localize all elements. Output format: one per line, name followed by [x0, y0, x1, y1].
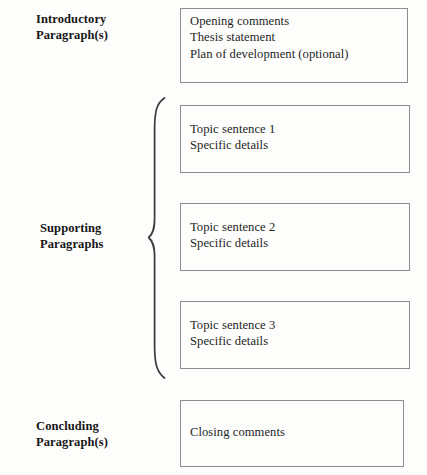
section-label-supporting: Supporting Paragraphs — [40, 221, 160, 252]
supporting-paragraph-text-2: Topic sentence 2 Specific details — [190, 219, 404, 252]
essay-structure-diagram: Introductory Paragraph(s) Opening commen… — [0, 0, 427, 475]
curly-brace-icon — [144, 94, 170, 384]
introductory-paragraph-text: Opening comments Thesis statement Plan o… — [190, 13, 404, 62]
concluding-paragraph-text: Closing comments — [190, 424, 400, 440]
section-label-concluding: Concluding Paragraph(s) — [36, 419, 156, 450]
supporting-paragraph-text-1: Topic sentence 1 Specific details — [190, 121, 404, 154]
supporting-paragraph-text-3: Topic sentence 3 Specific details — [190, 317, 404, 350]
section-label-introductory: Introductory Paragraph(s) — [36, 12, 156, 43]
